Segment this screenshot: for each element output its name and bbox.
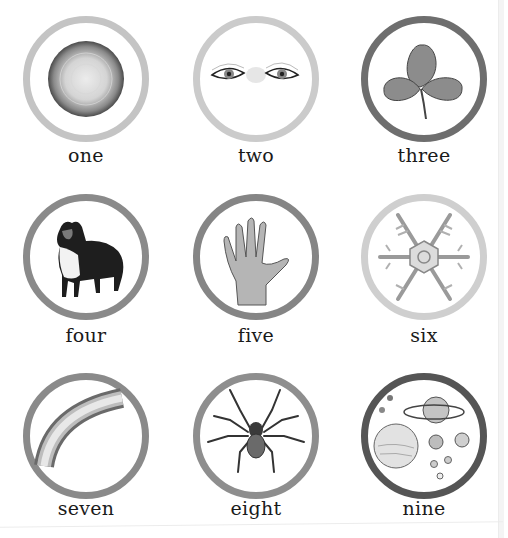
ring [23,373,149,499]
clover-icon [368,23,480,135]
snowflake-icon [368,201,480,313]
label-seven: seven [1,497,171,519]
card-six: six [339,194,508,372]
label-six: six [339,324,508,346]
card-one: one [1,16,171,194]
ring [193,194,319,320]
card-four: four [1,194,171,372]
ring [23,194,149,320]
card-nine: nine [339,373,508,538]
planets-icon [368,380,480,492]
label-three: three [339,144,508,166]
label-eight: eight [171,497,341,519]
eyes-icon [200,23,312,135]
spider-icon [200,380,312,492]
card-five: five [171,194,341,372]
hand-icon [200,201,312,313]
label-five: five [171,324,341,346]
card-two: two [171,16,341,194]
card-eight: eight [171,373,341,538]
ring [23,16,149,142]
label-four: four [1,324,171,346]
label-one: one [1,144,171,166]
ring [361,194,487,320]
ring [361,373,487,499]
ring [193,16,319,142]
rainbow-icon [30,380,142,492]
dog-icon [30,201,142,313]
label-two: two [171,144,341,166]
ring [361,16,487,142]
card-seven: seven [1,373,171,538]
ring [193,373,319,499]
sun-disc-icon [30,23,142,135]
card-three: three [339,16,508,194]
label-nine: nine [339,497,508,519]
